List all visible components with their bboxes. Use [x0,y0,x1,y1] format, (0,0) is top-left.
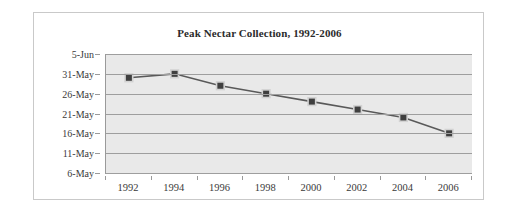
y-axis-tick-label: 16-May [62,128,94,139]
gridline [106,94,472,95]
x-axis-tick-mark [380,176,381,180]
y-axis-tick-mark [95,94,100,95]
x-axis-tick-label: 1994 [163,182,184,193]
y-axis-tick-label: 26-May [62,88,94,99]
x-axis-tick-mark [151,176,152,180]
x-axis-tick-label: 2002 [346,182,367,193]
y-axis-tick-label: 11-May [63,148,94,159]
data-point-marker [126,75,132,81]
x-axis-tick-label: 2004 [392,182,413,193]
x-axis-tick-mark [242,176,243,180]
gridline [106,153,472,154]
data-point-marker [400,114,406,120]
y-axis-tick-mark [95,74,100,75]
gridline [106,114,472,115]
x-axis-tick-label: 1992 [117,182,138,193]
y-axis-tick-label: 21-May [62,108,94,119]
x-axis-tick-mark [105,176,106,180]
gridline [106,133,472,134]
x-axis-tick-mark [197,176,198,180]
x-axis-tick-label: 1998 [255,182,276,193]
y-axis-tick-mark [95,54,100,55]
y-axis-tick-label: 31-May [62,68,94,79]
chart-title: Peak Nectar Collection, 1992-2006 [34,27,485,39]
x-axis-tick-mark [425,176,426,180]
y-axis-tick-mark [95,133,100,134]
plot-area [105,54,472,174]
x-axis: 19921994199619982000200220042006 [105,176,471,196]
x-axis-tick-label: 1996 [209,182,230,193]
series-line [129,74,449,134]
y-axis-tick-label: 6-May [67,168,94,179]
y-axis-tick-label: 5-Jun [72,49,94,60]
x-axis-tick-mark [334,176,335,180]
x-axis-tick-mark [471,176,472,180]
y-axis-tick-mark [95,173,100,174]
y-axis: 5-Jun31-May26-May21-May16-May11-May6-May [34,54,100,173]
x-axis-tick-label: 2000 [300,182,321,193]
gridline [106,54,472,55]
x-axis-tick-label: 2006 [438,182,459,193]
data-point-marker [309,99,315,105]
y-axis-tick-mark [95,114,100,115]
gridline [106,74,472,75]
gridline [106,173,472,174]
chart-frame: Peak Nectar Collection, 1992-2006 5-Jun3… [33,12,484,200]
data-point-marker [217,83,223,89]
x-axis-tick-mark [288,176,289,180]
y-axis-tick-mark [95,153,100,154]
data-point-marker [355,107,361,113]
